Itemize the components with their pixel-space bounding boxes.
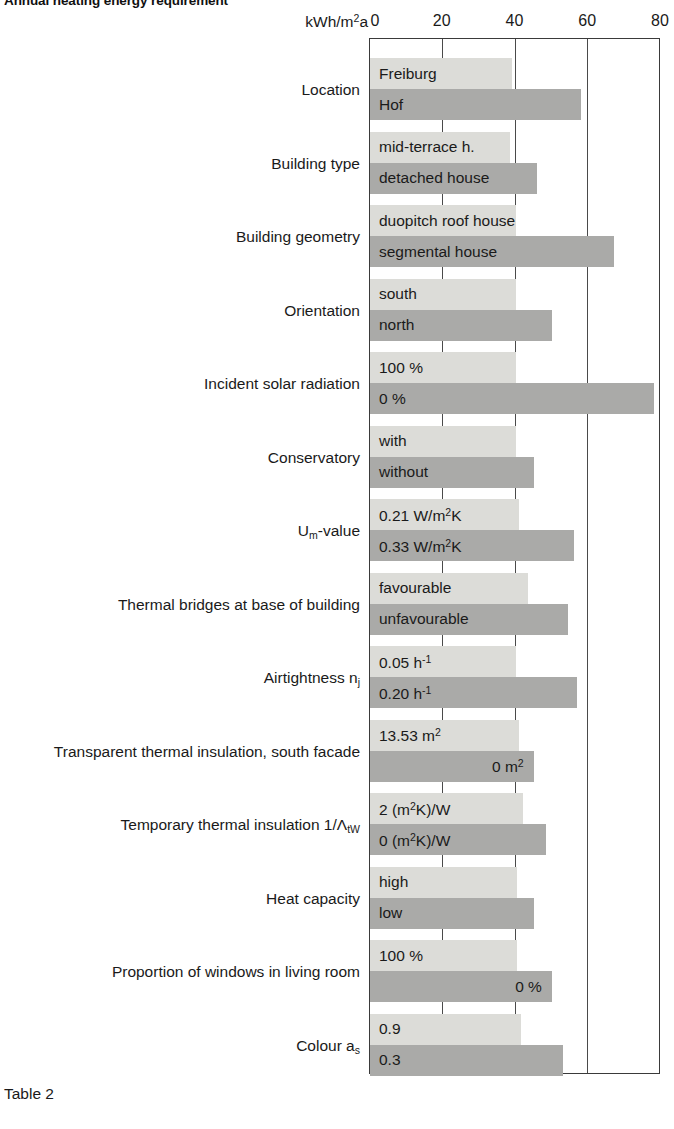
bar-value-label: 0.33 W/m2K (379, 537, 462, 553)
chart-row: Orientationsouthnorth (0, 279, 674, 341)
bar-value-label: low (379, 905, 402, 921)
bar-dark: 0.20 h-1 (370, 677, 577, 708)
chart-row: Thermal bridges at base of buildingfavou… (0, 573, 674, 635)
bar-dark: unfavourable (370, 604, 568, 635)
row-category-label: Proportion of windows in living room (112, 964, 360, 980)
bar-value-label: high (379, 874, 408, 890)
row-category-label: Um-value (298, 523, 360, 540)
chart-row: Heat capacityhighlow (0, 867, 674, 929)
chart-row: Um-value0.21 W/m2K0.33 W/m2K (0, 499, 674, 561)
bar-light: Freiburg (370, 58, 512, 89)
axis-tick-0: 0 (371, 12, 380, 30)
axis-header: kWh/m2a 020406080 (0, 12, 674, 38)
chart-row: Transparent thermal insulation, south fa… (0, 720, 674, 782)
bar-value-label: 2 (m2K)/W (379, 800, 450, 816)
bar-value-label: with (379, 433, 407, 449)
bar-dark: without (370, 457, 534, 488)
row-category-label: Heat capacity (266, 891, 360, 907)
bar-dark: 0 m2 (370, 751, 534, 782)
bar-light: high (370, 867, 517, 898)
bar-light: south (370, 279, 516, 310)
bar-value-label: 0.20 h-1 (379, 684, 431, 700)
bar-dark: 0 (m2K)/W (370, 824, 546, 855)
axis-unit-label: kWh/m2a (305, 12, 368, 31)
page-title: Annual heating energy requirement (4, 0, 228, 8)
bar-value-label: segmental house (379, 244, 497, 260)
bar-value-label: 0 (m2K)/W (379, 831, 450, 847)
bar-value-label: 100 % (379, 948, 423, 964)
bar-dark: 0.3 (370, 1045, 563, 1076)
bar-light: with (370, 426, 516, 457)
rows-layer: LocationFreiburgHofBuilding typemid-terr… (0, 38, 674, 1074)
row-category-label: Thermal bridges at base of building (118, 597, 360, 613)
bar-dark: low (370, 898, 534, 929)
chart-row: Airtightness nj0.05 h-10.20 h-1 (0, 646, 674, 708)
chart-row: Colour as0.90.3 (0, 1014, 674, 1076)
bar-dark: north (370, 310, 552, 341)
bar-value-label: unfavourable (379, 611, 469, 627)
bar-dark: detached house (370, 163, 537, 194)
bar-value-label: 13.53 m2 (379, 727, 441, 743)
table-caption: Table 2 (4, 1085, 54, 1103)
bar-light: 0.05 h-1 (370, 646, 516, 677)
bar-dark: Hof (370, 89, 581, 120)
bar-dark: 0 % (370, 971, 552, 1002)
chart-row: Temporary thermal insulation 1/ΛtW2 (m2K… (0, 793, 674, 855)
row-category-label: Conservatory (268, 450, 360, 466)
bar-value-label: 0.9 (379, 1021, 401, 1037)
bar-dark: 0 % (370, 383, 654, 414)
bar-value-label: north (379, 317, 414, 333)
bar-value-label: detached house (379, 170, 489, 186)
bar-value-label: 0.3 (379, 1052, 401, 1068)
bar-light: duopitch roof house (370, 205, 516, 236)
bar-value-label: Hof (379, 97, 403, 113)
axis-tick-60: 60 (578, 12, 596, 30)
chart-row: Building typemid-terrace h.detached hous… (0, 132, 674, 194)
chart-row: Proportion of windows in living room100 … (0, 940, 674, 1002)
row-category-label: Incident solar radiation (204, 376, 360, 392)
bar-light: 13.53 m2 (370, 720, 519, 751)
chart-row: LocationFreiburgHof (0, 58, 674, 120)
bar-dark: segmental house (370, 236, 614, 267)
bar-light: 100 % (370, 352, 516, 383)
axis-tick-40: 40 (506, 12, 524, 30)
bar-value-label: without (379, 464, 428, 480)
chart-row: Building geometryduopitch roof housesegm… (0, 205, 674, 267)
bar-value-label: south (379, 286, 417, 302)
bar-value-label: 0.21 W/m2K (379, 506, 462, 522)
bar-dark: 0.33 W/m2K (370, 530, 574, 561)
bar-light: mid-terrace h. (370, 132, 510, 163)
bar-value-label: mid-terrace h. (379, 139, 475, 155)
bar-light: 0.9 (370, 1014, 521, 1045)
row-category-label: Orientation (284, 303, 360, 319)
bar-value-label: 0 m2 (492, 758, 524, 774)
bar-value-label: favourable (379, 580, 451, 596)
bar-light: 2 (m2K)/W (370, 793, 523, 824)
row-category-label: Building geometry (236, 229, 360, 245)
row-category-label: Colour as (296, 1038, 360, 1055)
row-category-label: Building type (271, 156, 360, 172)
bar-value-label: 0 % (379, 391, 406, 407)
bar-light: favourable (370, 573, 528, 604)
axis-unit-suffix: a (359, 13, 368, 30)
axis-tick-80: 80 (651, 12, 669, 30)
chart-row: Conservatorywithwithout (0, 426, 674, 488)
row-category-label: Temporary thermal insulation 1/ΛtW (121, 817, 360, 834)
bar-value-label: 0 % (515, 979, 542, 995)
row-category-label: Location (301, 82, 360, 98)
chart-row: Incident solar radiation100 %0 % (0, 352, 674, 414)
bar-value-label: duopitch roof house (379, 213, 515, 229)
bar-value-label: 100 % (379, 360, 423, 376)
row-category-label: Transparent thermal insulation, south fa… (54, 744, 360, 760)
bar-light: 100 % (370, 940, 517, 971)
axis-unit-prefix: kWh/m (305, 13, 353, 30)
bar-value-label: 0.05 h-1 (379, 653, 431, 669)
axis-tick-20: 20 (433, 12, 451, 30)
bar-value-label: Freiburg (379, 66, 437, 82)
row-category-label: Airtightness nj (264, 670, 360, 687)
bar-light: 0.21 W/m2K (370, 499, 519, 530)
